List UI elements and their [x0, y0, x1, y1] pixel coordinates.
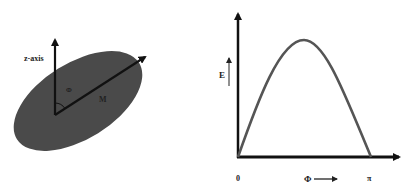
x-origin-label: 0 [236, 174, 240, 183]
figure-canvas: z-axis Φ M E 0 Φ π [0, 0, 416, 191]
energy-chart: E 0 Φ π [219, 14, 399, 184]
x-end-label: π [367, 174, 372, 183]
y-axis-label: E [219, 70, 225, 80]
x-axis-label: Φ [304, 174, 312, 184]
vector-label: M [99, 95, 107, 104]
angle-label: Φ [66, 86, 72, 94]
ellipse-shape [0, 31, 159, 172]
energy-curve [238, 40, 371, 157]
ellipsoid-diagram: z-axis Φ M [0, 31, 159, 172]
z-axis-label: z-axis [24, 54, 44, 63]
